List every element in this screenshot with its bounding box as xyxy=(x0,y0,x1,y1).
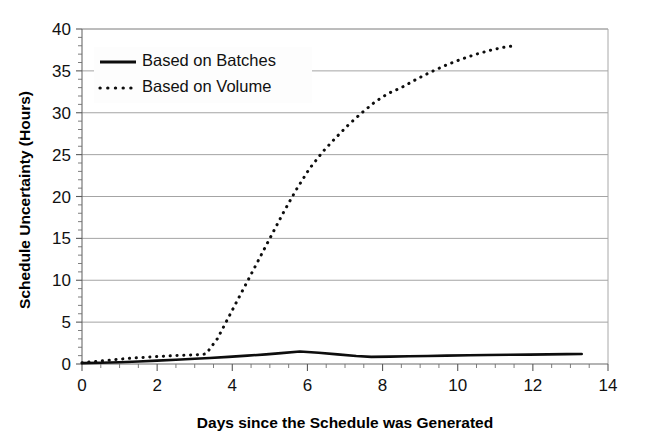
y-tick-label-5: 5 xyxy=(62,313,71,332)
x-axis-title: Days since the Schedule was Generated xyxy=(197,414,493,431)
y-axis-title: Schedule Uncertainty (Hours) xyxy=(16,91,33,309)
y-tick-label-40: 40 xyxy=(52,20,71,39)
y-tick-label-30: 30 xyxy=(52,104,71,123)
legend: Based on BatchesBased on Volume xyxy=(94,47,312,103)
x-tick-label-8: 8 xyxy=(378,376,387,395)
y-tick-label-35: 35 xyxy=(52,62,71,81)
x-tick-label-14: 14 xyxy=(599,376,618,395)
y-tick-label-15: 15 xyxy=(52,229,71,248)
y-tick-label-25: 25 xyxy=(52,146,71,165)
chart-container: 051015202530354002468101214 Based on Bat… xyxy=(0,0,650,445)
x-tick-label-2: 2 xyxy=(152,376,161,395)
legend-label: Based on Batches xyxy=(142,51,276,69)
x-tick-label-4: 4 xyxy=(228,376,237,395)
line-chart: 051015202530354002468101214 Based on Bat… xyxy=(0,0,650,445)
y-tick-label-10: 10 xyxy=(52,271,71,290)
legend-label: Based on Volume xyxy=(142,77,271,95)
x-tick-label-0: 0 xyxy=(77,376,86,395)
x-tick-label-12: 12 xyxy=(523,376,542,395)
x-tick-label-10: 10 xyxy=(448,376,467,395)
y-tick-label-20: 20 xyxy=(52,188,71,207)
x-tick-label-6: 6 xyxy=(303,376,312,395)
y-tick-label-0: 0 xyxy=(62,355,71,374)
